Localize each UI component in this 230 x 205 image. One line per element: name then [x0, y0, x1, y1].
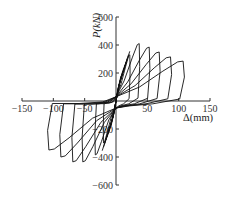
y-tick-label: 400 — [98, 40, 113, 51]
y-tick-label: 200 — [98, 68, 113, 79]
x-tick-label: −150 — [12, 103, 33, 114]
x-tick-label: −100 — [43, 103, 64, 114]
y-tick-label: −600 — [92, 180, 113, 191]
axes: −150−100−5050100150−600−400−200200400600 — [12, 12, 218, 191]
hysteresis-loop-cycle-2 — [95, 44, 140, 155]
y-axis-label: P(kN) — [91, 12, 103, 39]
x-axis-label: Δ(mm) — [183, 112, 214, 124]
hysteresis-chart: −150−100−5050100150−600−400−200200400600… — [0, 0, 230, 205]
